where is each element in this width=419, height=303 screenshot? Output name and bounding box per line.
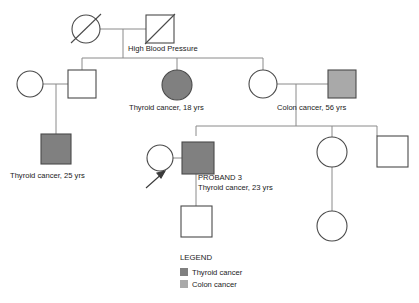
symbol-circle-female[interactable] (249, 70, 277, 98)
individual-gen3-proband-spouse[interactable] (147, 145, 173, 171)
individual-gen4-son[interactable] (181, 206, 212, 237)
legend-title: LEGEND (180, 253, 212, 262)
individual-gen3-proband[interactable] (182, 142, 214, 174)
individual-gen2-daughter[interactable] (249, 70, 277, 98)
symbol-square-male-affected[interactable] (328, 70, 356, 98)
individual-gen2-daughter-thyroid[interactable] (162, 70, 192, 100)
individual-gen1-male[interactable] (145, 14, 175, 44)
symbol-square-male[interactable] (377, 136, 408, 167)
legend-swatch-thyroid (180, 268, 188, 276)
pedigree-chart: High Blood Pressure Thyroid cancer, 18 y… (0, 0, 419, 303)
legend-label-thyroid: Thyroid cancer (192, 268, 243, 277)
label-proband-title: PROBAND 3 (198, 173, 242, 182)
individual-gen2-right-spouse-colon[interactable] (328, 70, 356, 98)
individual-gen3-sister[interactable] (317, 137, 347, 167)
label-gen1-condition: High Blood Pressure (128, 44, 198, 53)
symbol-square-male-affected[interactable] (41, 134, 71, 164)
individual-gen3-son-thyroid[interactable] (41, 134, 71, 164)
label-colon-56: Colon cancer, 56 yrs (277, 103, 346, 112)
label-thyroid-18: Thyroid cancer, 18 yrs (129, 103, 204, 112)
symbol-circle-female[interactable] (147, 145, 173, 171)
symbol-square-male-proband[interactable] (182, 142, 214, 174)
proband-arrow-icon (146, 171, 165, 188)
symbol-square-male[interactable] (68, 70, 96, 98)
individual-gen4-daughter[interactable] (317, 211, 347, 241)
label-thyroid-25: Thyroid cancer, 25 yrs (10, 171, 85, 180)
legend-label-colon: Colon cancer (192, 280, 237, 289)
legend: LEGEND Thyroid cancer Colon cancer (180, 253, 243, 289)
legend-swatch-colon (180, 280, 188, 288)
individual-gen1-female[interactable] (71, 14, 101, 43)
symbol-circle-female-affected[interactable] (162, 70, 192, 100)
pedigree-canvas: High Blood Pressure Thyroid cancer, 18 y… (0, 0, 419, 303)
label-proband-detail: Thyroid cancer, 23 yrs (198, 183, 273, 192)
individual-gen2-left-spouse[interactable] (17, 71, 43, 97)
symbol-circle-female[interactable] (317, 137, 347, 167)
individual-gen2-son[interactable] (68, 70, 96, 98)
symbol-square-male[interactable] (181, 206, 212, 237)
symbol-circle-female[interactable] (17, 71, 43, 97)
individual-gen3-brother[interactable] (377, 136, 408, 167)
symbol-circle-female[interactable] (317, 211, 347, 241)
